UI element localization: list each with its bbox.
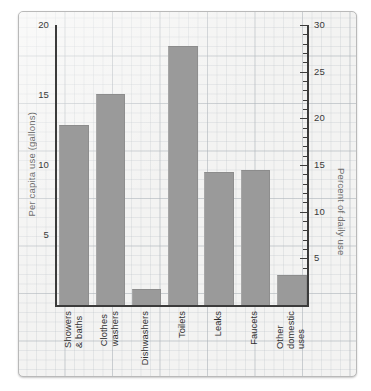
bar xyxy=(59,125,89,305)
bar xyxy=(277,275,307,305)
bar xyxy=(241,170,271,305)
y-axis-right-tick-label: 10 xyxy=(314,206,336,217)
x-axis-category-label: Dishwashers xyxy=(140,311,151,365)
y-axis-right-tick-label: 15 xyxy=(314,159,336,170)
x-axis-category-label: Other domestic uses xyxy=(275,311,307,349)
bar xyxy=(132,289,162,305)
bar xyxy=(204,172,234,305)
y-axis-left-tick-label: 5 xyxy=(27,229,49,240)
bar xyxy=(96,94,126,305)
y-axis-left-tick-label: 15 xyxy=(27,89,49,100)
bar xyxy=(168,46,198,305)
y-axis-right-tick-label: 30 xyxy=(314,19,336,30)
y-axis-right-tick-label: 25 xyxy=(314,66,336,77)
x-axis-category-label: Showers & baths xyxy=(63,311,84,348)
x-axis-category-label: Toilets xyxy=(177,311,188,338)
x-axis-category-label: Faucets xyxy=(249,311,260,345)
y-axis-right-tick-label: 5 xyxy=(314,252,336,263)
x-axis-line xyxy=(55,305,309,307)
y-axis-right-tick-label: 20 xyxy=(314,112,336,123)
y-axis-right-major-tick xyxy=(300,305,307,306)
bar-series xyxy=(55,25,309,305)
plot-area: 2015105 30252015105 Showers & bathsCloth… xyxy=(0,0,371,391)
y-axis-left-tick-label: 20 xyxy=(27,19,49,30)
chart-page: 2015105 30252015105 Showers & bathsCloth… xyxy=(0,0,371,391)
y-axis-right-title: Percent of daily use xyxy=(336,168,347,255)
x-axis-category-label: Leaks xyxy=(213,311,224,336)
x-axis-category-label: Clothes washers xyxy=(99,311,120,346)
y-axis-left-title: Per capita use (gallons) xyxy=(26,112,37,217)
